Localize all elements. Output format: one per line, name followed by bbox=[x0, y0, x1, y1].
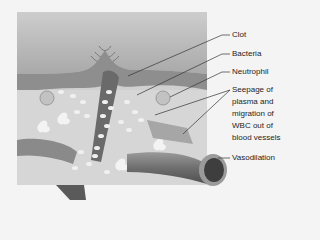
vessel-tail bbox=[56, 185, 86, 200]
leader-seepage-a bbox=[155, 90, 230, 115]
label-neutrophil: Neutrophil bbox=[232, 67, 268, 77]
leader-clot bbox=[128, 35, 230, 76]
vessel-opening bbox=[204, 158, 224, 182]
label-bacteria: Bacteria bbox=[232, 49, 261, 59]
label-seepage-line3: migration of bbox=[232, 109, 274, 119]
label-seepage-line1: Seepage of bbox=[232, 85, 273, 95]
label-clot: Clot bbox=[232, 30, 246, 40]
label-seepage-line5: blood vessels bbox=[232, 133, 280, 143]
label-seepage-line2: plasma and bbox=[232, 97, 273, 107]
label-seepage-line4: WBC out of bbox=[232, 121, 273, 131]
label-vasodilation: Vasodilation bbox=[232, 153, 275, 163]
leader-seepage-b bbox=[183, 90, 230, 134]
